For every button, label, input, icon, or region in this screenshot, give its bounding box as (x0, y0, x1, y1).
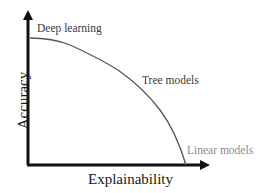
y-axis-arrow-icon (23, 10, 33, 20)
label-deep-learning: Deep learning (37, 22, 102, 34)
label-linear-models: Linear models (187, 144, 253, 156)
x-axis-title: Explainability (88, 171, 173, 188)
y-axis-title: Accuracy (15, 66, 32, 136)
tradeoff-curve (30, 38, 186, 165)
x-axis-arrow-icon (200, 160, 210, 170)
label-tree-models: Tree models (142, 74, 199, 86)
